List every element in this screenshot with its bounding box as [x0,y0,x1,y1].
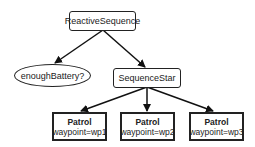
edge-sequence-patrol3 [147,87,213,111]
node-label: enoughBattery? [21,71,85,81]
patrol-wp3-node: Patrol waypoint=wp3 [189,112,244,141]
patrol-wp2-node: Patrol waypoint=wp2 [120,112,175,141]
node-label: SequenceStar [118,73,175,83]
patrol-wp1-node: Patrol waypoint=wp1 [52,112,107,141]
node-title: Patrol [135,117,159,127]
node-param: waypoint=wp1 [52,127,106,137]
reactive-sequence-node: ReactiveSequence [69,11,136,31]
edge-sequence-patrol1 [81,87,147,111]
node-title: Patrol [67,117,91,127]
enough-battery-condition-node: enoughBattery? [14,64,91,87]
node-label: ReactiveSequence [65,16,141,26]
edge-root-condition [55,30,103,63]
node-param: waypoint=wp2 [120,127,174,137]
edge-root-sequence [103,30,145,67]
node-param: waypoint=wp3 [189,127,243,137]
node-title: Patrol [204,117,228,127]
sequence-star-node: SequenceStar [113,68,181,88]
